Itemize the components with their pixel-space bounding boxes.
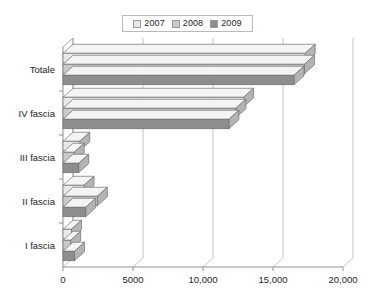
x-axis-label-10000: 10,000 <box>188 274 217 285</box>
grid-depth-connector <box>203 258 213 267</box>
grid-depth-connector <box>133 258 143 267</box>
y-axis-label-iv-fascia: IV fascia <box>19 108 56 119</box>
bar-chart-figure: 2007 2008 2009 TotaleIV fasciaIII fascia… <box>0 0 377 299</box>
bar-top-face <box>63 99 246 108</box>
bar-series-group <box>63 44 315 261</box>
bar-front-face <box>63 75 294 85</box>
y-axis-label-iii-fascia: III fascia <box>20 152 56 163</box>
x-axis-label-20000: 20,000 <box>328 274 357 285</box>
bar-front-face <box>63 119 229 129</box>
bar-front-face <box>63 251 74 261</box>
bar-top-face <box>63 66 304 75</box>
plot-area: TotaleIV fasciaIII fasciaII fasciaI fasc… <box>0 0 377 299</box>
y-axis-label-totale: Totale <box>30 64 55 75</box>
x-axis-label-0: 0 <box>60 274 65 285</box>
bar-2009-iv-fascia <box>63 110 239 129</box>
bar-front-face <box>63 207 86 217</box>
bar-front-face <box>63 163 79 173</box>
bar-top-face <box>63 44 315 53</box>
bar-top-face <box>63 110 239 119</box>
bar-top-face <box>63 55 315 64</box>
x-axis-label-5000: 5000 <box>122 274 143 285</box>
grid-depth-connector <box>343 258 353 267</box>
x-axis-labels: 0500010,00015,00020,000 <box>60 274 357 285</box>
bar-top-face <box>63 88 254 97</box>
x-axis-label-15000: 15,000 <box>258 274 287 285</box>
y-axis-label-ii-fascia: II fascia <box>22 196 55 207</box>
grid-depth-connector <box>273 258 283 267</box>
y-axis-label-i-fascia: I fascia <box>25 240 56 251</box>
bar-2009-totale <box>63 66 304 85</box>
y-axis-labels: TotaleIV fasciaIII fasciaII fasciaI fasc… <box>19 64 56 251</box>
